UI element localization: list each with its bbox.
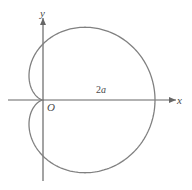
origin-label: O <box>47 102 55 113</box>
cardioid-figure: y x O 2a <box>0 0 192 190</box>
axes-group <box>8 18 176 181</box>
diameter-label: 2a <box>96 85 106 95</box>
y-axis-label: y <box>40 8 45 19</box>
diameter-label-variable: a <box>101 84 106 95</box>
y-axis-arrowhead <box>40 18 46 25</box>
x-axis-label: x <box>177 95 182 106</box>
x-axis-arrowhead <box>169 97 176 103</box>
plot-canvas <box>0 0 192 190</box>
